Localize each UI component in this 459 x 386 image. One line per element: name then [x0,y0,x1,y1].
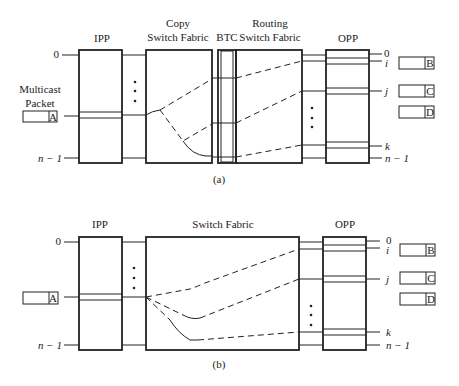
output-k-label-b: k [386,326,392,338]
svg-text:A: A [49,111,57,123]
svg-text:D: D [427,293,435,305]
output-n-1-label: n − 1 [385,152,409,164]
routing-fabric-label-2: Switch Fabric [239,31,301,43]
output-j-label: j [383,85,388,97]
packet-d: D [399,106,434,118]
diagram-b: IPP Switch Fabric OPP 0 n − 1 A [23,218,435,371]
ipp-label-b: IPP [92,218,108,230]
input-n-1-label-b: n − 1 [38,339,62,351]
fabric-label-b: Switch Fabric [192,218,254,230]
input-n-1-label: n − 1 [38,152,62,164]
switch-fabric-b [146,237,299,350]
ellipsis-dots [134,81,137,103]
multicast-label: Multicast [19,83,61,95]
btc-label: BTC [216,31,237,43]
output-n-1-label-b: n − 1 [386,339,410,351]
copy-fabric-label-2: Switch Fabric [147,31,209,43]
opp-label: OPP [338,32,358,44]
svg-text:B: B [426,57,433,69]
packet-d-b: D [400,293,435,305]
input-0-label-b: 0 [56,235,62,247]
packet-b: B [399,57,434,69]
output-i-label-b: i [386,244,389,256]
output-i-label: i [385,57,388,69]
packet-c: C [399,85,434,97]
input-0-label: 0 [54,48,60,60]
svg-text:C: C [427,272,434,284]
ipp-label: IPP [94,32,110,44]
packet-a-b: A [23,292,58,304]
svg-text:B: B [427,244,434,256]
copy-fabric-label: Copy [166,17,190,29]
opp-label-b: OPP [335,218,355,230]
svg-text:D: D [426,106,434,118]
opp-box [326,50,369,163]
packet-c-b: C [400,272,435,284]
opp-box-b [323,237,366,350]
routing-switch-fabric [236,50,302,163]
packet-a: A [23,111,57,123]
ipp-box [79,50,122,163]
svg-text:A: A [49,292,57,304]
multicast-switch-diagram: IPP Copy Switch Fabric BTC Routing Switc… [0,0,459,386]
diagram-a: IPP Copy Switch Fabric BTC Routing Switc… [19,17,434,186]
packet-label: Packet [25,97,54,109]
packet-b-b: B [400,244,435,256]
output-k-label: k [385,140,391,152]
routing-fabric-label: Routing [252,17,288,29]
output-j-label-b: j [384,273,389,285]
copy-switch-fabric [146,50,212,163]
caption-b: (b) [213,358,226,371]
svg-text:C: C [426,85,433,97]
caption-a: (a) [213,173,226,186]
